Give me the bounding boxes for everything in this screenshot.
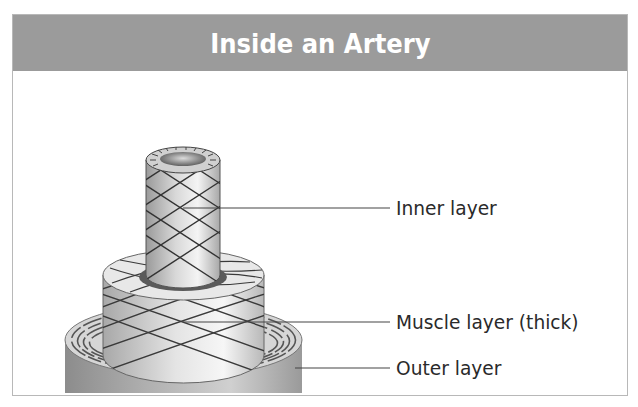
label-muscle-layer: Muscle layer (thick): [396, 310, 579, 334]
label-inner-layer: Inner layer: [396, 196, 497, 220]
artery-illustration: [0, 0, 638, 407]
label-outer-layer: Outer layer: [396, 356, 501, 380]
